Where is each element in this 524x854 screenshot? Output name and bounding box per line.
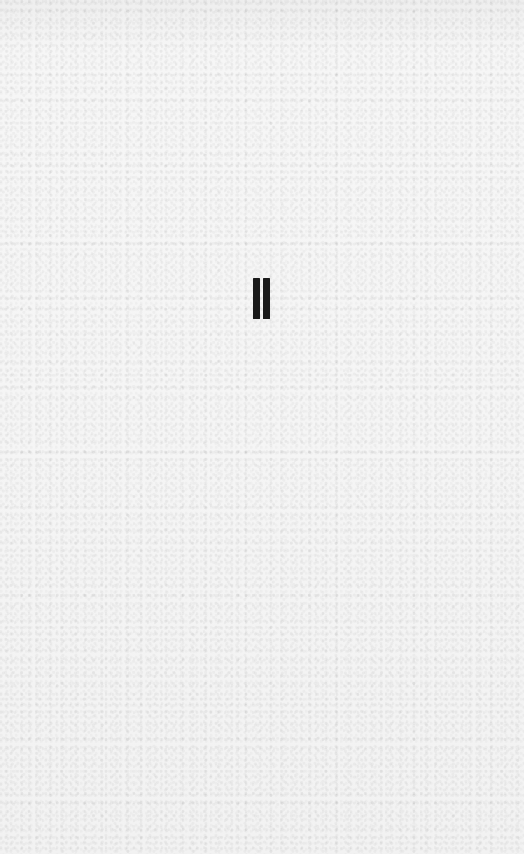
- pause-bar-left: [253, 278, 260, 319]
- pause-bar-right: [263, 278, 270, 319]
- paused-screen: [0, 0, 524, 854]
- pause-button[interactable]: [253, 278, 270, 319]
